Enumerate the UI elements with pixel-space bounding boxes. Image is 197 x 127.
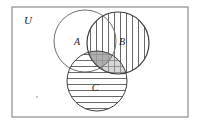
stray-dot-mark [36, 96, 38, 98]
circle-c-label: C [92, 82, 99, 93]
circle-b-label: B [119, 36, 125, 47]
universe-label: U [24, 14, 33, 26]
circle-a-label: A [73, 36, 81, 47]
venn-diagram-canvas: U A B C [0, 0, 197, 127]
venn-diagram-figure: U A B C [0, 0, 197, 127]
